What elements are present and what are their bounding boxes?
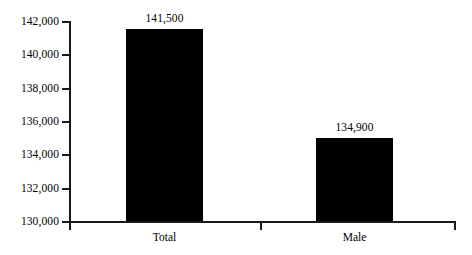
y-axis-tick [62,154,70,156]
x-axis-tick-middle [260,223,262,230]
x-axis-tick-start [69,223,71,230]
y-axis-tick [62,54,70,56]
y-axis-tick [62,188,70,190]
y-axis-label-142000: 142,000 [21,16,59,28]
y-axis-label-130000: 130,000 [21,216,59,228]
y-axis-tick [62,21,70,23]
y-axis-label-140000: 140,000 [21,49,59,61]
bar-total [126,29,203,221]
bar-male [316,138,393,221]
y-axis-label-138000: 138,000 [21,83,59,95]
x-axis-label-total: Total [126,231,203,244]
bar-value-male: 134,900 [316,121,393,133]
x-axis-label-male: Male [316,231,393,244]
bar-chart: 142,000 140,000 138,000 136,000 134,000 … [0,0,472,255]
bar-value-total: 141,500 [126,12,203,24]
y-axis-label-134000: 134,000 [21,149,59,161]
y-axis-tick [62,88,70,90]
x-axis-line [69,221,456,223]
y-axis-label-136000: 136,000 [21,116,59,128]
y-axis-label-132000: 132,000 [21,183,59,195]
x-axis-tick-end [454,223,456,230]
y-axis-tick [62,121,70,123]
